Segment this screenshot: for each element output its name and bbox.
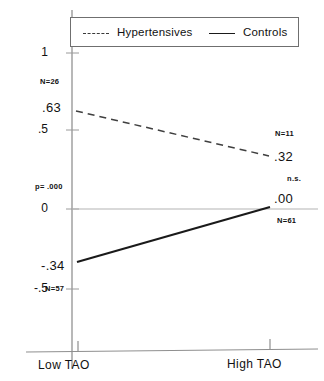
y-tick-label-point-five: .5 xyxy=(14,122,48,136)
series-line-hypertensives xyxy=(76,111,269,156)
x-axis-spine xyxy=(26,349,318,352)
annotation-hypertensives-significance: p= .000 xyxy=(35,182,63,191)
annotation-controls-low-n: N=57 xyxy=(45,284,64,293)
legend: Hypertensives Controls xyxy=(70,17,299,47)
legend-item-hypertensives: Hypertensives xyxy=(83,18,192,46)
y-tick-label-1: 1 xyxy=(14,45,48,59)
y-tick-label-zero: 0 xyxy=(14,201,48,215)
annotation-hypertensives-low-n: N=26 xyxy=(40,77,59,86)
x-tick-label-low-tao: Low TAO xyxy=(38,358,90,372)
solid-line-swatch-icon xyxy=(209,33,235,34)
legend-label-hypertensives: Hypertensives xyxy=(117,26,192,38)
annotation-hypertensives-high-n: N=11 xyxy=(275,129,294,138)
y-tick-label-neg-point-five: -.5 xyxy=(14,281,48,295)
annotation-controls-low-value: -.34 xyxy=(41,258,65,273)
annotation-controls-high-n: N=61 xyxy=(277,216,296,225)
annotation-hypertensives-low-value: .63 xyxy=(42,100,61,115)
annotation-hypertensives-high-value: .32 xyxy=(274,149,293,164)
dashed-line-swatch-icon xyxy=(83,33,109,34)
series-line-controls xyxy=(77,207,270,262)
annotation-controls-high-value: .00 xyxy=(274,191,293,206)
legend-item-controls: Controls xyxy=(209,18,287,46)
annotation-controls-significance: n.s. xyxy=(287,174,301,183)
line-chart: Hypertensives Controls 1 .5 0 -.5 Low TA… xyxy=(0,0,324,381)
x-tick-label-high-tao: High TAO xyxy=(227,357,282,371)
legend-label-controls: Controls xyxy=(243,26,287,38)
